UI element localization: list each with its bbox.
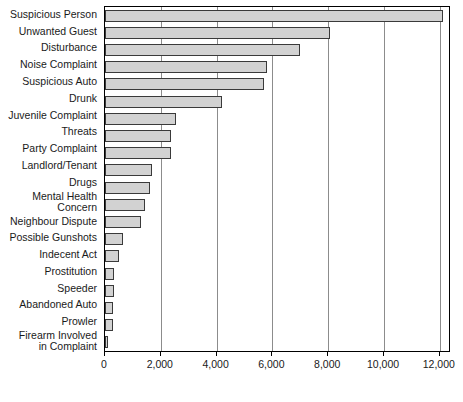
bar [105,199,145,211]
category-label: Party Complaint [0,140,101,157]
bar-row [105,282,449,299]
bar-row [105,7,449,24]
bar [105,27,330,39]
axis-tick [327,352,328,356]
category-label: Noise Complaint [0,56,101,73]
bar-series [105,7,449,351]
category-axis-labels: Suspicious PersonUnwanted GuestDisturban… [0,6,101,352]
bar [105,10,443,22]
bar [105,147,171,159]
category-label: Mental Health Concern [0,191,101,213]
bar-row [105,317,449,334]
bar [105,96,222,108]
bar-row [105,248,449,265]
category-label: Landlord/Tenant [0,157,101,174]
bar [105,130,171,142]
bar [105,78,264,90]
category-label: Threats [0,123,101,140]
axis-tick [104,352,105,356]
axis-tick-label: 4,000 [202,358,228,370]
bar [105,233,123,245]
category-label: Suspicious Auto [0,73,101,90]
category-label: Juvenile Complaint [0,107,101,124]
bar-row [105,41,449,58]
bar [105,319,113,331]
bar [105,113,176,125]
bar-row [105,162,449,179]
category-label: Disturbance [0,40,101,57]
category-label: Suspicious Person [0,6,101,23]
axis-tick-label: 6,000 [258,358,284,370]
plot-area [104,6,450,352]
axis-tick-label: 2,000 [147,358,173,370]
category-label: Indecent Act [0,246,101,263]
category-label: Prostitution [0,263,101,280]
bar [105,250,119,262]
bar-row [105,24,449,41]
category-label: Firearm Involved in Complaint [0,330,101,352]
bar [105,268,114,280]
axis-tick [160,352,161,356]
bar [105,44,300,56]
bar [105,216,141,228]
axis-tick [439,352,440,356]
bar [105,61,267,73]
category-label: Prowler [0,313,101,330]
bar [105,182,150,194]
axis-tick-label: 0 [101,358,107,370]
bar-row [105,196,449,213]
category-label: Drunk [0,90,101,107]
bar-row [105,93,449,110]
axis-tick [216,352,217,356]
category-label: Neighbour Dispute [0,213,101,230]
bar-row [105,145,449,162]
axis-tick-label: 8,000 [314,358,340,370]
value-axis: 02,0004,0006,0008,00010,00012,000 [104,352,450,374]
bar-row [105,231,449,248]
category-label: Unwanted Guest [0,23,101,40]
bar-row [105,265,449,282]
bar-row [105,213,449,230]
bar-row [105,334,449,351]
bar-row [105,127,449,144]
bar-row [105,76,449,93]
axis-tick-label: 12,000 [423,358,455,370]
axis-tick [271,352,272,356]
bar-row [105,179,449,196]
bar-row [105,299,449,316]
bar-row [105,110,449,127]
category-label: Speeder [0,280,101,297]
bar-chart: Suspicious PersonUnwanted GuestDisturban… [0,0,463,402]
bar [105,164,152,176]
bar-row [105,59,449,76]
bar [105,336,108,348]
bar [105,302,113,314]
category-label: Possible Gunshots [0,229,101,246]
axis-tick-label: 10,000 [367,358,399,370]
axis-tick [383,352,384,356]
category-label: Drugs [0,174,101,191]
category-label: Abandoned Auto [0,297,101,314]
bar [105,285,114,297]
